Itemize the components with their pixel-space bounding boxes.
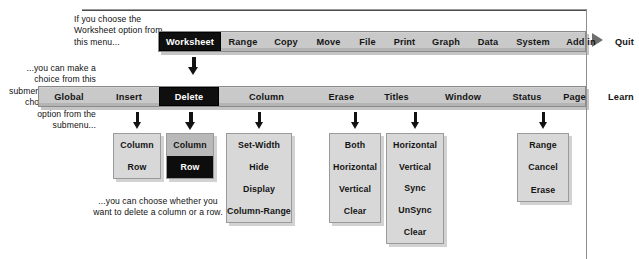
option-window-unsync[interactable]: UnSync <box>387 199 443 221</box>
option-erase-both[interactable]: Both <box>330 134 380 156</box>
arrow-head <box>133 122 141 129</box>
menu-item-file[interactable]: File <box>350 32 385 51</box>
main-menu-bar: WorksheetRangeCopyMoveFilePrintGraphData… <box>158 31 586 52</box>
option-box-insert: ColumnRow <box>113 133 161 179</box>
menu-item-worksheet[interactable]: Worksheet <box>159 32 221 51</box>
option-insert-row[interactable]: Row <box>114 156 160 178</box>
menu-item-copy[interactable]: Copy <box>265 32 307 51</box>
arrow-head <box>255 122 263 129</box>
arrow-to-insert-box-icon <box>133 112 142 129</box>
arrow-head <box>411 122 419 129</box>
submenu-item-learn[interactable]: Learn <box>597 87 639 106</box>
option-column-hide[interactable]: Hide <box>227 156 291 178</box>
arrow-head <box>351 122 359 129</box>
menu-item-graph[interactable]: Graph <box>424 32 468 51</box>
annotation-bottom: ...you can choose whether you want to de… <box>88 196 228 219</box>
arrow-to-titles-box-icon <box>351 112 360 129</box>
arrow-to-delete-box-icon <box>185 112 196 129</box>
menu-item-range[interactable]: Range <box>221 32 265 51</box>
option-window-horizontal[interactable]: Horizontal <box>387 134 443 156</box>
menu-item-print[interactable]: Print <box>385 32 424 51</box>
submenu-item-global[interactable]: Global <box>39 87 99 106</box>
submenu-item-titles[interactable]: Titles <box>369 87 424 106</box>
submenu-item-status[interactable]: Status <box>502 87 552 106</box>
option-delete-row[interactable]: Row <box>167 156 213 178</box>
option-erase-clear[interactable]: Clear <box>330 200 380 222</box>
top-rule <box>82 9 586 11</box>
submenu-item-column[interactable]: Column <box>219 87 314 106</box>
option-insert-column[interactable]: Column <box>114 134 160 156</box>
menu-item-system[interactable]: System <box>508 32 558 51</box>
menu-item-quit[interactable]: Quit <box>604 32 639 51</box>
option-box-learn: RangeCancelErase <box>517 133 569 202</box>
menu-item-data[interactable]: Data <box>468 32 508 51</box>
option-window-clear[interactable]: Clear <box>387 221 443 243</box>
option-column-column-range[interactable]: Column-Range <box>227 200 291 222</box>
arrow-head <box>188 67 198 75</box>
option-delete-column[interactable]: Column <box>167 134 213 156</box>
submenu-item-window[interactable]: Window <box>424 87 502 106</box>
worksheet-submenu-bar: GlobalInsertDeleteColumnEraseTitlesWindo… <box>38 86 586 107</box>
option-column-set-width[interactable]: Set-Width <box>227 134 291 156</box>
option-learn-erase[interactable]: Erase <box>518 179 568 201</box>
menu-item-add-in[interactable]: Add in <box>558 32 604 51</box>
arrow-head <box>539 122 547 129</box>
option-box-delete: ColumnRow <box>166 133 214 179</box>
annotation-top: If you choose the Worksheet option from … <box>74 14 170 48</box>
arrow-to-learn-box-icon <box>539 112 548 129</box>
option-column-display[interactable]: Display <box>227 178 291 200</box>
submenu-item-page[interactable]: Page <box>552 87 597 106</box>
option-box-window: HorizontalVerticalSyncUnSyncClear <box>386 133 444 244</box>
option-learn-range[interactable]: Range <box>518 134 568 156</box>
option-box-titles: BothHorizontalVerticalClear <box>329 133 381 223</box>
option-erase-vertical[interactable]: Vertical <box>330 178 380 200</box>
option-window-vertical[interactable]: Vertical <box>387 156 443 178</box>
option-window-sync[interactable]: Sync <box>387 178 443 200</box>
arrow-to-window-box-icon <box>411 112 420 129</box>
option-erase-horizontal[interactable]: Horizontal <box>330 156 380 178</box>
arrow-head <box>185 122 195 130</box>
submenu-item-erase[interactable]: Erase <box>314 87 369 106</box>
menu-item-move[interactable]: Move <box>307 32 350 51</box>
submenu-item-insert[interactable]: Insert <box>99 87 159 106</box>
arrow-to-column-box-icon <box>255 112 264 129</box>
option-learn-cancel[interactable]: Cancel <box>518 156 568 178</box>
submenu-item-delete[interactable]: Delete <box>159 87 219 106</box>
arrow-worksheet-to-submenu-icon <box>188 57 199 74</box>
option-box-column: Set-WidthHideDisplayColumn-Range <box>226 133 292 223</box>
